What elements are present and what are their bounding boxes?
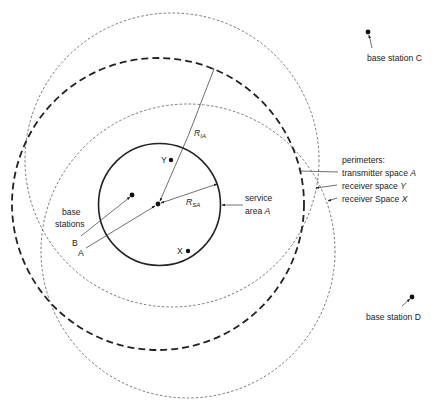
receiver-x-dot	[186, 249, 190, 253]
base-station-b-dot	[130, 193, 135, 198]
station-a-pointer	[86, 206, 155, 248]
station-c-pointer	[369, 35, 372, 48]
receiver-x-label: X	[177, 246, 183, 256]
receiver-y-dot	[169, 158, 173, 162]
base-station-c-dot	[366, 30, 371, 35]
base-stations-label-line2: stations	[55, 219, 85, 229]
service-area-label-line2: area A	[245, 206, 271, 216]
interference-diagram: base station C base station D perimeters…	[0, 0, 443, 407]
radius-ia-label: RIA	[194, 128, 206, 139]
base-station-d-dot	[410, 295, 415, 300]
perimeter-transmitter-label: transmitter space A	[342, 168, 416, 178]
radius-ia-arrow	[160, 69, 214, 201]
radius-sa-label: RSA	[186, 197, 200, 208]
base-station-a-dot	[156, 202, 161, 207]
diagram-canvas: base station C base station D perimeters…	[0, 0, 443, 407]
station-a-label: A	[78, 248, 84, 258]
receiver-y-label: Y	[161, 155, 167, 165]
base-station-c-label: base station C	[367, 53, 422, 63]
perimeter-receiver-x-label: receiver Space X	[342, 194, 408, 204]
service-area-label-line1: service	[245, 193, 272, 203]
base-stations-label-line1: base	[62, 207, 81, 217]
perimeter-receiver-y-label: receiver space Y	[342, 181, 407, 191]
station-b-label: B	[72, 238, 78, 248]
radius-ia-tick	[210, 68, 214, 69]
perimeters-heading: perimeters:	[342, 155, 385, 165]
receiver-x-perimeter-pointer	[328, 198, 337, 201]
base-station-d-label: base station D	[366, 312, 421, 322]
station-d-pointer	[402, 299, 410, 306]
station-b-pointer	[81, 197, 130, 236]
